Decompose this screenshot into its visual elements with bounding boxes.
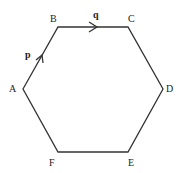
vertex-label-c: C — [128, 13, 135, 24]
vector-label-p: p — [25, 49, 31, 60]
vertex-label-b: B — [50, 13, 57, 24]
vector-label-q: q — [93, 9, 99, 20]
hexagon-diagram: A B C D E F p q — [0, 0, 182, 173]
vertex-label-e: E — [128, 157, 134, 168]
vertex-label-a: A — [9, 83, 17, 94]
vertex-label-f: F — [49, 157, 55, 168]
hexagon-outline — [23, 27, 163, 152]
vertex-label-d: D — [166, 83, 173, 94]
